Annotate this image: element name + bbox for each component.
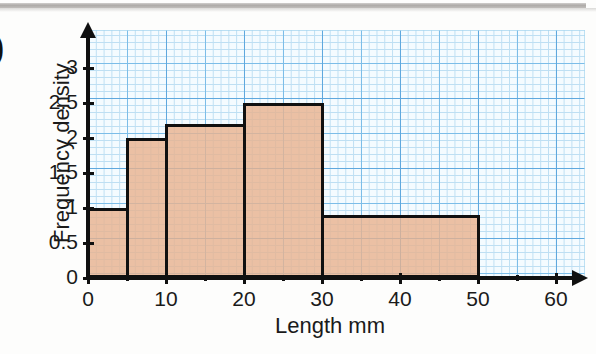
histogram-bar	[243, 103, 324, 278]
question-label-bracket: )	[0, 27, 4, 67]
x-axis-tick-label: 40	[380, 287, 420, 311]
histogram-bar	[321, 215, 480, 278]
histogram-bar	[165, 124, 246, 278]
x-axis-arrow-icon	[572, 270, 588, 286]
x-axis-tick-label: 30	[302, 287, 342, 311]
y-axis-title: Frequency density	[49, 28, 75, 278]
histogram-page: ) 010203040506000.511.522.53 Length mm F…	[0, 0, 596, 354]
x-axis-line	[86, 276, 575, 280]
x-axis-tick-label: 10	[146, 287, 186, 311]
y-axis-line	[86, 34, 90, 280]
x-axis-tick-label: 60	[536, 287, 576, 311]
page-scan-artifact-fade	[0, 8, 596, 12]
x-axis-tick-label: 20	[224, 287, 264, 311]
histogram-bar	[126, 138, 168, 278]
x-axis-tick-label: 50	[458, 287, 498, 311]
x-axis-title: Length mm	[180, 313, 480, 339]
y-axis-arrow-icon	[80, 22, 96, 38]
x-axis-tick-label: 0	[68, 287, 108, 311]
